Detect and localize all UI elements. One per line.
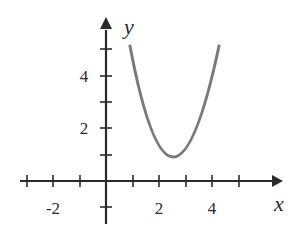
parabola-graph: -2 2 4 x 4 2 y xyxy=(0,0,297,231)
y-axis-arrow-icon xyxy=(100,17,112,29)
x-tick-label-neg2: -2 xyxy=(46,199,60,218)
x-tick-label-2: 2 xyxy=(155,199,164,218)
y-tick-label-2: 2 xyxy=(80,119,89,138)
x-axis: -2 2 4 x xyxy=(20,175,284,218)
y-axis: 4 2 y xyxy=(80,14,134,224)
y-axis-label: y xyxy=(122,14,134,39)
x-axis-label: x xyxy=(273,191,284,216)
y-tick-label-4: 4 xyxy=(80,67,89,86)
x-tick-label-4: 4 xyxy=(208,199,217,218)
parabola-curve xyxy=(130,46,219,157)
x-axis-arrow-icon xyxy=(272,175,283,187)
